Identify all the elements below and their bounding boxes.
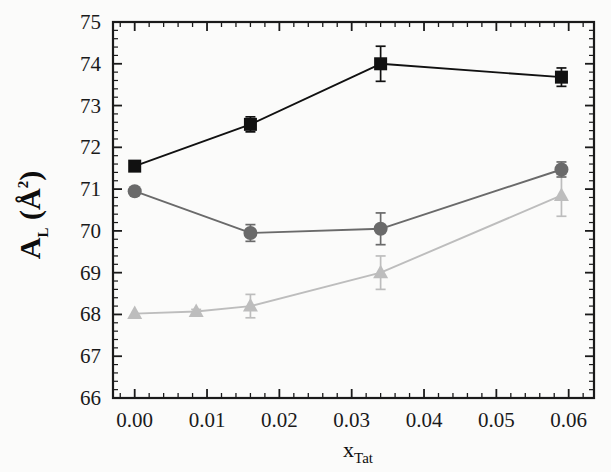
data-point-circle	[554, 162, 568, 176]
data-point-square	[555, 71, 568, 84]
y-tick-label: 70	[80, 219, 101, 243]
y-axis-unit: (Å	[13, 188, 47, 220]
y-axis-title-base: A	[13, 237, 46, 259]
x-tick-label: 0.05	[478, 408, 515, 432]
data-point-circle	[243, 226, 257, 240]
x-tick-label: 0.01	[189, 408, 226, 432]
x-tick-label: 0.02	[261, 408, 298, 432]
x-axis-title-base: x	[343, 437, 354, 462]
y-tick-label: 72	[80, 135, 101, 159]
line-chart: 0.000.010.020.030.040.050.06666768697071…	[0, 0, 611, 472]
y-tick-label: 69	[80, 261, 101, 285]
y-tick-label: 71	[80, 177, 101, 201]
y-axis-title-subscript: L	[35, 227, 51, 237]
x-tick-label: 0.03	[333, 408, 370, 432]
y-axis-unit-exponent: 2	[15, 181, 31, 189]
figure-canvas: 0.000.010.020.030.040.050.06666768697071…	[0, 0, 611, 472]
data-point-square	[128, 160, 141, 173]
data-point-circle	[374, 222, 388, 236]
y-tick-label: 73	[80, 94, 101, 118]
x-tick-label: 0.00	[116, 408, 153, 432]
x-axis-title-subscript: Tat	[354, 450, 374, 466]
x-tick-label: 0.04	[406, 408, 443, 432]
y-tick-label: 74	[80, 52, 102, 76]
data-point-square	[244, 118, 257, 131]
y-axis-unit-close: )	[13, 171, 47, 181]
data-point-square	[374, 57, 387, 70]
y-tick-label: 66	[80, 386, 101, 410]
x-tick-label: 0.06	[550, 408, 587, 432]
y-tick-label: 68	[80, 302, 101, 326]
y-tick-label: 75	[80, 10, 101, 34]
data-point-circle	[128, 184, 142, 198]
y-tick-label: 67	[80, 344, 101, 368]
